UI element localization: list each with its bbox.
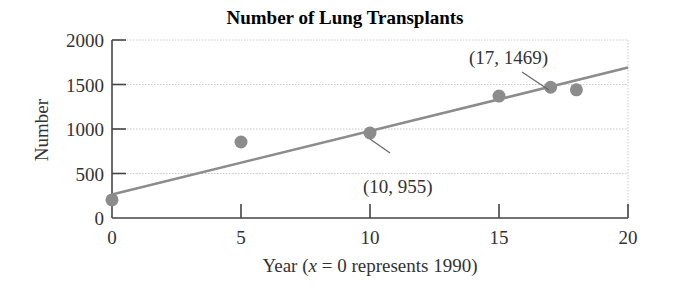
y-tick-label: 2000	[66, 30, 104, 51]
x-axis-label: Year (x = 0 represents 1990)	[262, 255, 477, 277]
x-tick-label: 5	[236, 227, 246, 248]
x-axis-label-prefix: Year (	[262, 255, 308, 277]
x-tick-label: 0	[107, 227, 117, 248]
data-point	[570, 83, 583, 96]
y-axis-label: Number	[31, 98, 52, 161]
y-tick-label: 0	[95, 208, 105, 229]
annotation-leader	[370, 139, 390, 153]
data-point	[235, 135, 248, 148]
annotation-label: (17, 1469)	[469, 47, 548, 69]
chart-title: Number of Lung Transplants	[226, 7, 463, 28]
x-axis-ticks: 05101520	[107, 204, 637, 248]
x-axis-label-suffix: = 0 represents 1990)	[317, 255, 478, 277]
annotation-leader	[522, 72, 549, 90]
scatter-chart: Number of Lung Transplants 0500100015002…	[0, 0, 673, 295]
annotation-label: (10, 955)	[363, 176, 433, 198]
annotations: (17, 1469)(10, 955)	[363, 47, 549, 198]
data-point	[544, 81, 557, 94]
data-point	[493, 90, 506, 103]
x-tick-label: 10	[361, 227, 380, 248]
data-point	[106, 193, 119, 206]
y-tick-label: 500	[76, 164, 105, 185]
data-point	[364, 127, 377, 140]
y-tick-label: 1500	[66, 75, 104, 96]
data-points	[106, 81, 583, 207]
x-tick-label: 20	[619, 227, 638, 248]
y-tick-label: 1000	[66, 119, 104, 140]
x-tick-label: 15	[490, 227, 509, 248]
